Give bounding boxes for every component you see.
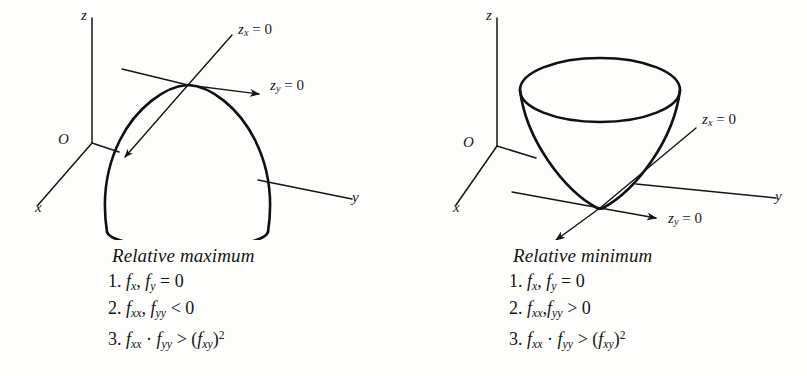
condition-number: 2. — [509, 298, 523, 318]
subscript-yy: yy — [156, 306, 167, 320]
condition-number: 3. — [108, 329, 122, 349]
relative-maximum-caption: Relative maximum 1. fx, fy = 0 2. fxx, f… — [108, 245, 388, 355]
dome-profile — [105, 85, 270, 232]
comma: , — [136, 271, 141, 291]
condition-item-3: 3. fxx · fyy > (fxy)2 — [509, 324, 789, 355]
zx-equals-zero-label: zx = 0 — [702, 112, 736, 128]
relative-maximum-diagram — [0, 0, 403, 240]
condition-item-1: 1. fx, fy = 0 — [108, 270, 388, 297]
dome-base-front — [107, 232, 268, 240]
zx-symbol: z — [238, 21, 244, 37]
zy-symbol: z — [270, 77, 276, 93]
condition-item-1: 1. fx, fy = 0 — [509, 270, 789, 297]
tangent-zx-upper — [188, 35, 232, 85]
y-axis-far-segment — [636, 184, 776, 198]
exponent-two: 2 — [620, 329, 626, 341]
dot-operator: · — [142, 329, 157, 349]
dome-surface — [105, 85, 270, 240]
greater-than-zero: > 0 — [563, 298, 591, 318]
subscript-xx: xx — [532, 306, 543, 320]
zy-equals-zero-label: zy = 0 — [668, 211, 702, 227]
subscript-yy: yy — [552, 306, 563, 320]
zy-equation: = 0 — [679, 210, 702, 226]
y-axis-label: y — [352, 190, 359, 205]
zx-equation: = 0 — [713, 111, 736, 127]
z-axis-label: z — [486, 8, 492, 23]
bowl-rim-ellipse — [520, 58, 680, 122]
zy-equals-zero-label: zy = 0 — [270, 78, 304, 94]
origin-label: O — [463, 135, 474, 150]
y-axis-label: y — [775, 189, 782, 204]
subscript-xx: xx — [532, 337, 543, 351]
less-than-zero: < 0 — [166, 298, 194, 318]
tangent-zx-upper — [600, 128, 696, 208]
dot-operator: · — [543, 329, 558, 349]
condition-number: 2. — [108, 298, 122, 318]
x-axis — [38, 143, 92, 205]
comma: , — [142, 298, 147, 318]
tangent-zy-left — [512, 192, 600, 208]
subscript-yy: yy — [162, 337, 173, 351]
x-axis-label: x — [35, 200, 42, 215]
axes-group — [38, 18, 352, 205]
x-axis-label: x — [453, 200, 460, 215]
y-axis-far-segment — [258, 180, 352, 199]
relative-minimum-diagram — [404, 0, 807, 240]
greater-than: > — [573, 329, 592, 349]
subscript-yy: yy — [563, 337, 574, 351]
exponent-two: 2 — [219, 329, 225, 341]
z-axis-label: z — [81, 8, 87, 23]
caption-title: Relative maximum — [112, 245, 388, 267]
relative-maximum-figure: z O x y zx = 0 zy = 0 Relative maximum 1… — [0, 0, 403, 376]
zy-symbol: z — [668, 210, 674, 226]
scanned-page: z O x y zx = 0 zy = 0 Relative maximum 1… — [0, 0, 807, 376]
condition-item-2: 2. fxx,fyy > 0 — [509, 297, 789, 324]
caption-title: Relative minimum — [513, 245, 789, 267]
subscript-xx: xx — [131, 337, 142, 351]
condition-list: 1. fx, fy = 0 2. fxx, fyy < 0 3. fxx · f… — [108, 270, 388, 355]
zx-equation: = 0 — [249, 21, 272, 37]
zx-symbol: z — [702, 111, 708, 127]
zx-equals-zero-label: zx = 0 — [238, 22, 272, 38]
condition-item-2: 2. fxx, fyy < 0 — [108, 297, 388, 324]
condition-number: 3. — [509, 329, 523, 349]
tangent-zy-right — [188, 85, 259, 94]
tangent-zx-lower — [556, 208, 600, 240]
tangent-zy-right — [600, 208, 656, 218]
condition-number: 1. — [509, 271, 523, 291]
condition-item-3: 3. fxx · fyy > (fxy)2 — [108, 324, 388, 355]
subscript-xx: xx — [131, 306, 142, 320]
condition-list: 1. fx, fy = 0 2. fxx,fyy > 0 3. fxx · fy… — [509, 270, 789, 355]
equals-zero: = 0 — [557, 271, 585, 291]
origin-label: O — [58, 132, 69, 147]
equals-zero: = 0 — [156, 271, 184, 291]
zy-equation: = 0 — [281, 77, 304, 93]
condition-number: 1. — [108, 271, 122, 291]
relative-minimum-figure: z O x y zx = 0 zy = 0 Relative minimum 1… — [404, 0, 807, 376]
subscript-xy: xy — [603, 337, 614, 351]
relative-minimum-caption: Relative minimum 1. fx, fy = 0 2. fxx,fy… — [509, 245, 789, 355]
tangent-zy-line — [512, 192, 656, 218]
subscript-xy: xy — [202, 337, 213, 351]
y-axis-near-segment — [497, 146, 536, 158]
tangent-zy-left — [122, 69, 188, 85]
comma: , — [537, 271, 542, 291]
greater-than: > — [172, 329, 191, 349]
x-axis — [456, 146, 497, 205]
